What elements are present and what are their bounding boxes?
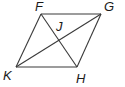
vertex-label-f: F xyxy=(35,0,44,14)
vertex-label-g: G xyxy=(104,0,114,14)
vertex-label-k: K xyxy=(3,68,13,83)
intersection-label-j: J xyxy=(55,19,63,34)
parallelogram-diagram: F G J K H xyxy=(0,0,125,87)
vertex-label-h: H xyxy=(76,71,86,86)
